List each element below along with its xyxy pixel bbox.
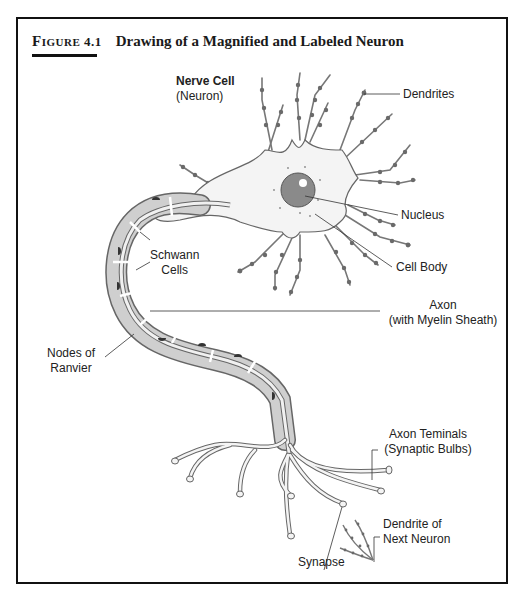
schwann-line-2: Cells <box>161 263 188 277</box>
dendrites-label: Dendrites <box>403 87 454 102</box>
neuron-subtitle: (Neuron) <box>176 89 223 103</box>
nodes-line-1: Nodes of <box>47 346 95 360</box>
terminals-line-1: Axon Teminals <box>389 427 467 441</box>
nodes-line-2: Ranvier <box>50 361 91 375</box>
nucleus <box>281 173 315 207</box>
axon-myelin-sheath <box>113 197 290 460</box>
axon-terminals-label: Axon Teminals(Synaptic Bulbs) <box>382 427 474 457</box>
synapse-label: Synapse <box>298 555 345 570</box>
terminals-line-2: (Synaptic Bulbs) <box>384 442 471 456</box>
nerve-cell-title: Nerve Cell <box>176 74 235 88</box>
next-neuron-dendrite-label: Dendrite ofNext Neuron <box>383 517 450 547</box>
next-neuron-dendrite <box>340 520 373 560</box>
next-dendrite-line-2: Next Neuron <box>383 532 450 546</box>
schwann-cells-label: SchwannCells <box>150 248 199 278</box>
schwann-line-1: Schwann <box>150 248 199 262</box>
nodes-of-ranvier-label: Nodes ofRanvier <box>36 346 106 376</box>
axon-label: Axon(with Myelin Sheath) <box>378 298 508 328</box>
next-dendrite-line-1: Dendrite of <box>383 517 442 531</box>
nerve-cell-label: Nerve Cell(Neuron) <box>176 74 235 104</box>
cell-body <box>155 140 358 238</box>
axon-line-1: Axon <box>429 298 456 312</box>
axon-line-2: (with Myelin Sheath) <box>389 313 498 327</box>
cell-body-label: Cell Body <box>396 260 447 275</box>
nucleus-label: Nucleus <box>401 208 444 223</box>
